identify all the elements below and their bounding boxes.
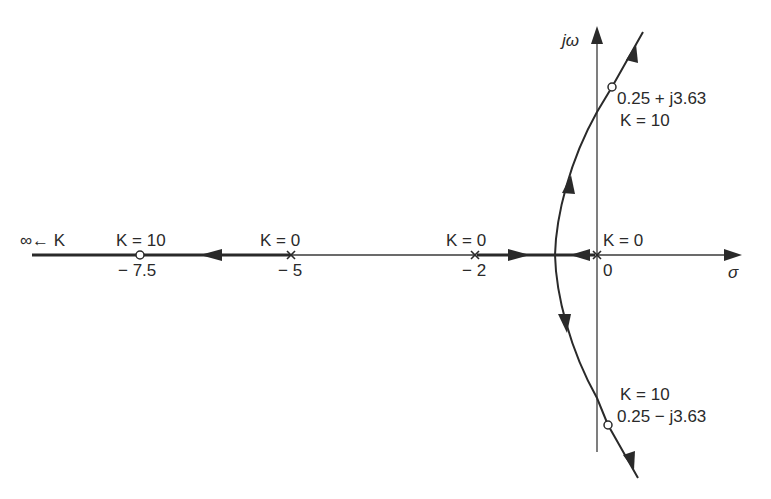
point-marker-m7-5	[136, 251, 144, 259]
point-marker-lower	[604, 421, 612, 429]
point-marker-upper	[608, 83, 616, 91]
imag-axis-arrow-icon	[591, 26, 603, 44]
real-axis-label: σ	[728, 263, 739, 282]
k10-left-label: K = 10	[116, 231, 166, 250]
lower-point-k-label: K = 10	[620, 385, 670, 404]
k0-origin-label: K = 0	[603, 231, 643, 250]
infinity-k-label: ∞← K	[20, 231, 66, 250]
real-axis-arrow-icon	[724, 249, 742, 261]
tick-label-m2: − 2	[462, 261, 486, 280]
k0-m2-label: K = 0	[446, 231, 486, 250]
k0-m5-label: K = 0	[260, 231, 300, 250]
tick-label-0: 0	[603, 261, 612, 280]
locus-arrow-left2-icon	[570, 249, 590, 261]
lower-point-value-label: 0.25 − j3.63	[617, 407, 706, 426]
locus-arrow-left-icon	[200, 249, 222, 261]
upper-point-value-label: 0.25 + j3.63	[617, 89, 706, 108]
imag-axis-label: jω	[560, 31, 579, 50]
upper-point-k-label: K = 10	[620, 111, 670, 130]
tick-label-m7-5: − 7.5	[118, 261, 156, 280]
root-locus-diagram: jω σ ∞← K K = 10 K = 0 K = 0 K = 0 − 7.5…	[0, 0, 771, 499]
branch-upper-top-arrow-icon	[626, 44, 638, 63]
locus-arrow-right-icon	[508, 249, 530, 261]
locus-branch-upper	[555, 32, 643, 255]
tick-label-m5: − 5	[278, 261, 302, 280]
